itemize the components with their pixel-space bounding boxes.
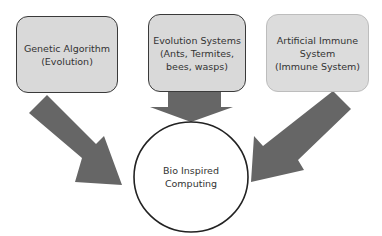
arrow-left [29,95,122,185]
center-label: Bio Inspired Computing [163,164,219,190]
node-label: Genetic Algorithm (Evolution) [24,42,110,68]
node-label: Evolution Systems (Ants, Termites, bees,… [153,34,241,73]
node-label: Artificial Immune System (Immune System) [275,34,360,73]
node-artificial-immune-system: Artificial Immune System (Immune System) [266,14,369,92]
node-evolution-systems: Evolution Systems (Ants, Termites, bees,… [148,14,246,92]
arrow-right [251,91,351,182]
arrow-middle [150,92,233,122]
center-node-bio-inspired-computing: Bio Inspired Computing [134,122,248,232]
node-genetic-algorithm: Genetic Algorithm (Evolution) [16,16,118,93]
